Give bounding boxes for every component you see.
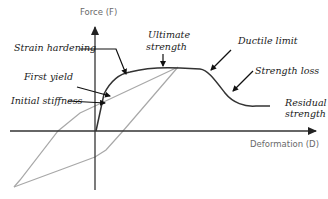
force-deformation-diagram: Force (F) Deformation (D) Strain hardeni… — [0, 0, 328, 199]
label-strength-loss: Strength loss — [255, 65, 319, 76]
arrow-ductile-limit — [211, 50, 231, 70]
x-axis-label: Deformation (D) — [250, 139, 319, 149]
label-residual-line2: strength — [285, 108, 326, 119]
backbone-curve — [96, 68, 270, 131]
y-axis-label: Force (F) — [80, 7, 117, 17]
label-residual-line1: Residual — [284, 97, 327, 108]
arrow-strength-loss — [233, 71, 253, 91]
label-strain-hardening: Strain hardening — [14, 42, 96, 53]
label-ductile-limit: Ductile limit — [237, 35, 298, 46]
label-ultimate-line2: strength — [146, 41, 187, 52]
label-initial-stiffness: Initial stiffness — [10, 95, 83, 106]
label-ultimate-line1: Ultimate — [148, 29, 190, 40]
hysteresis-loop — [14, 67, 178, 187]
label-first-yield: First yield — [23, 71, 73, 82]
